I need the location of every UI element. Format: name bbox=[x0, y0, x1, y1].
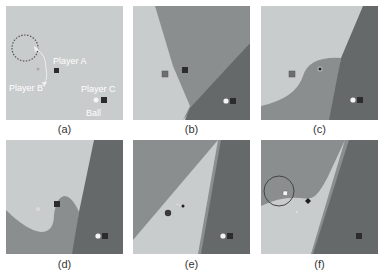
player-c-marker bbox=[101, 97, 107, 103]
panel-b-canvas bbox=[133, 6, 250, 120]
ball-marker bbox=[220, 233, 225, 238]
ball-marker bbox=[350, 97, 355, 102]
label-player-a: Player A bbox=[53, 56, 87, 66]
ball-marker bbox=[95, 233, 100, 238]
player-c-marker bbox=[102, 233, 108, 239]
panel-d bbox=[6, 140, 123, 254]
label-ball: Ball bbox=[86, 108, 101, 118]
player-a-marker bbox=[54, 68, 59, 73]
player-a-marker bbox=[182, 205, 185, 208]
player-b-marker bbox=[37, 68, 40, 71]
player-a-marker bbox=[319, 68, 322, 71]
player-b-marker bbox=[283, 191, 288, 196]
caption-d: (d) bbox=[6, 258, 123, 270]
caption-f: (f) bbox=[261, 258, 378, 270]
player-b-marker bbox=[162, 71, 168, 77]
ball-marker bbox=[296, 211, 298, 213]
player-a-marker bbox=[182, 67, 188, 73]
caption-c: (c) bbox=[261, 123, 378, 135]
panel-d-canvas bbox=[6, 140, 123, 254]
player-b-marker bbox=[36, 207, 40, 211]
label-player-c: Player C bbox=[81, 84, 116, 94]
panel-a: Player A Player B Player C Ball bbox=[6, 6, 123, 120]
player-b-marker bbox=[289, 71, 295, 77]
caption-a: (a) bbox=[6, 123, 123, 135]
player-c-marker bbox=[227, 233, 233, 239]
panel-e-canvas bbox=[133, 140, 250, 254]
caption-b: (b) bbox=[133, 123, 250, 135]
player-b-marker bbox=[165, 210, 171, 216]
player-a-marker bbox=[54, 201, 60, 207]
panel-f-canvas bbox=[261, 140, 378, 254]
player-c-marker bbox=[230, 98, 236, 104]
ball-marker bbox=[94, 98, 99, 103]
player-c-marker bbox=[356, 233, 362, 239]
panel-c-canvas bbox=[261, 6, 378, 120]
panel-c bbox=[261, 6, 378, 120]
caption-e: (e) bbox=[133, 258, 250, 270]
panel-a-canvas: Player A Player B Player C Ball bbox=[6, 6, 123, 120]
panel-f bbox=[261, 140, 378, 254]
panel-e bbox=[133, 140, 250, 254]
panel-b bbox=[133, 6, 250, 120]
label-player-b: Player B bbox=[9, 83, 43, 93]
ball-marker bbox=[223, 98, 228, 103]
player-c-marker bbox=[357, 97, 363, 103]
